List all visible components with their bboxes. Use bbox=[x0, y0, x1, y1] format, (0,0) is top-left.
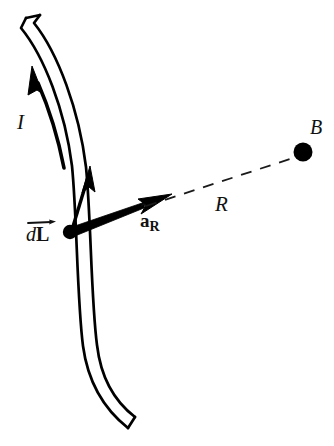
field-point-label: B bbox=[310, 117, 322, 137]
unit-vector-subscript: R bbox=[150, 219, 160, 234]
unit-vector-label: ˆaR bbox=[140, 211, 160, 234]
current-arrow-head bbox=[28, 66, 43, 95]
current-label: I bbox=[17, 112, 24, 133]
dl-vector-label: dL bbox=[26, 222, 49, 244]
source-point-dot bbox=[63, 225, 77, 239]
circumflex-hat-icon: ˆ bbox=[141, 202, 146, 217]
dl-d-symbol: d bbox=[26, 223, 36, 245]
dl-label-inner: dL bbox=[26, 222, 49, 244]
current-arrow-shaft bbox=[38, 83, 64, 168]
diagram-canvas bbox=[0, 0, 334, 446]
distance-label: R bbox=[215, 194, 228, 215]
current-direction-arrow bbox=[28, 66, 64, 168]
wire-bottom-cap bbox=[128, 417, 135, 428]
dl-L-symbol: L bbox=[36, 223, 49, 245]
unit-vector-label-inner: ˆaR bbox=[140, 211, 160, 234]
biot-savart-diagram: I R B dL ˆaR bbox=[0, 0, 334, 446]
field-point-dot bbox=[294, 143, 313, 162]
